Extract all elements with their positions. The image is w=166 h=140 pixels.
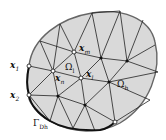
label-xl: xl bbox=[86, 70, 93, 81]
node-xm bbox=[72, 50, 76, 54]
node-xl bbox=[79, 76, 83, 80]
triangulated-domain bbox=[0, 0, 166, 140]
label-omega-l: Ωl bbox=[65, 63, 74, 74]
label-gamma-dh: ΓDh bbox=[33, 119, 48, 130]
node-x1 bbox=[27, 64, 31, 68]
node-x2 bbox=[27, 93, 31, 97]
label-x1: x1 bbox=[10, 61, 19, 72]
label-xn: xn bbox=[55, 74, 64, 85]
label-xm: xm bbox=[79, 44, 90, 55]
node-boundary-bottom bbox=[113, 120, 117, 124]
node-filled bbox=[107, 80, 110, 83]
node-filled bbox=[99, 56, 102, 59]
node-filled bbox=[56, 94, 59, 97]
node-filled bbox=[125, 59, 128, 62]
label-omega-h: Ωh bbox=[117, 80, 128, 91]
node-filled bbox=[83, 103, 86, 106]
label-x2: x2 bbox=[10, 91, 19, 102]
